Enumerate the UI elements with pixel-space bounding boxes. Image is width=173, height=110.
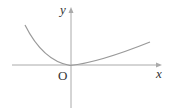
- y-axis-arrow-icon: [69, 7, 74, 13]
- x-axis-label: x: [155, 66, 162, 81]
- curve: [25, 25, 150, 66]
- origin-label: O: [58, 68, 67, 83]
- graph: y x O: [0, 0, 173, 110]
- y-axis-label: y: [58, 2, 66, 17]
